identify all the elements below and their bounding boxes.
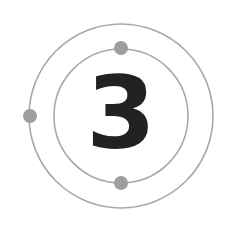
atomic-number: 3 — [0, 0, 234, 228]
